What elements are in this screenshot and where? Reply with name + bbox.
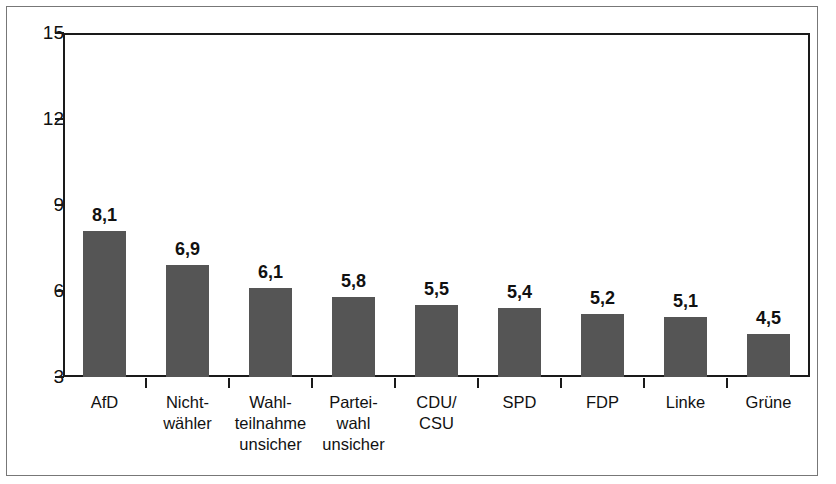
x-axis-tick-mark [477, 378, 479, 388]
chart-figure: 3691215 8,1AfD6,9Nicht-wähler6,1Wahl-tei… [0, 0, 836, 484]
x-axis-tick-mark [145, 378, 147, 388]
bar [249, 288, 292, 377]
bar [747, 334, 790, 377]
x-axis-category-label: Partei-wahlunsicher [308, 392, 400, 455]
bar-value-label: 5,4 [480, 283, 560, 301]
x-axis-tick-mark [311, 378, 313, 388]
bar-value-label: 4,5 [729, 309, 809, 327]
x-axis-category-label: Nicht-wähler [142, 392, 234, 434]
x-axis-tick-mark [394, 378, 396, 388]
x-axis-category-label-line: AfD [59, 392, 151, 413]
x-axis-category-label-line: Wahl- [225, 392, 317, 413]
x-axis-category-label: Linke [640, 392, 732, 413]
x-axis-category-label: Wahl-teilnahmeunsicher [225, 392, 317, 455]
bar [664, 317, 707, 377]
x-axis-category-label: CDU/CSU [391, 392, 483, 434]
x-axis-category-label-line: Linke [640, 392, 732, 413]
x-axis-category-label-line: unsicher [308, 434, 400, 455]
x-axis-category-label-line: Partei- [308, 392, 400, 413]
bar [166, 265, 209, 377]
bar-value-label: 6,9 [148, 240, 228, 258]
x-axis-tick-mark [643, 378, 645, 388]
x-axis-category-label-line: unsicher [225, 434, 317, 455]
bar-value-label: 5,1 [646, 292, 726, 310]
bar [332, 297, 375, 377]
x-axis-category-label-line: wähler [142, 413, 234, 434]
x-axis-category-label: Grüne [723, 392, 815, 413]
x-axis-tick-mark [228, 378, 230, 388]
x-axis-category-label-line: Nicht- [142, 392, 234, 413]
x-axis-tick-mark [726, 378, 728, 388]
bar-value-label: 5,2 [563, 289, 643, 307]
x-axis-category-label: SPD [474, 392, 566, 413]
bar [415, 305, 458, 377]
x-axis-category-label-line: wahl [308, 413, 400, 434]
x-axis-category-label: FDP [557, 392, 649, 413]
bar-value-label: 5,8 [314, 272, 394, 290]
bar [581, 314, 624, 377]
x-axis-category-label-line: teilnahme [225, 413, 317, 434]
x-axis-category-label: AfD [59, 392, 151, 413]
x-axis-category-label-line: CSU [391, 413, 483, 434]
x-axis-tick-mark [560, 378, 562, 388]
x-axis-category-label-line: FDP [557, 392, 649, 413]
x-axis-category-label-line: CDU/ [391, 392, 483, 413]
x-axis-category-label-line: SPD [474, 392, 566, 413]
bar-value-label: 5,5 [397, 280, 477, 298]
bar [83, 231, 126, 377]
bar [498, 308, 541, 377]
bar-value-label: 8,1 [65, 206, 145, 224]
y-axis: 3691215 [0, 0, 64, 484]
x-axis-category-label-line: Grüne [723, 392, 815, 413]
bar-value-label: 6,1 [231, 263, 311, 281]
